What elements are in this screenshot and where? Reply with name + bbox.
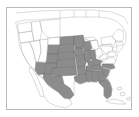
map-figure [0,0,139,117]
state-utah [38,39,48,62]
state-montana [40,19,60,38]
state-new-jersey [113,47,117,52]
state-kansas [56,59,76,68]
state-virginia [103,57,116,64]
state-maryland [108,52,116,57]
state-nebraska [56,52,75,60]
state-arkansas [77,66,86,75]
island-cuba [106,99,126,104]
state-south-dakota [58,44,74,53]
state-new-york [101,36,116,46]
state-oklahoma [51,67,77,76]
island-bahamas-south [120,92,125,96]
us-choropleth-map [0,0,139,117]
state-oregon [19,31,34,43]
state-north-dakota [60,36,74,45]
state-wyoming-outline [48,37,60,45]
state-colorado [46,54,58,63]
island-small [127,97,130,100]
island-bahamas-north [117,87,122,90]
state-west-virginia [100,54,108,61]
state-california [21,42,36,70]
state-florida [99,79,112,99]
state-iowa [74,48,84,56]
state-wyoming [47,45,59,54]
state-tennessee [86,65,103,71]
